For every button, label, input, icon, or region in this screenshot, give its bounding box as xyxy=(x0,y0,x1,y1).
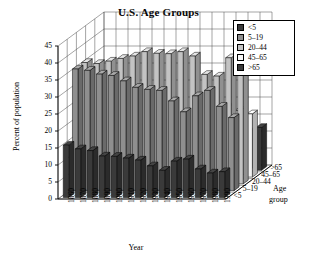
legend-item: 45–65 xyxy=(237,53,292,62)
y-axis-tick-label: 15 xyxy=(34,144,52,152)
y-axis-tick-label: 25 xyxy=(34,110,52,118)
legend-item: 5–19 xyxy=(237,33,292,42)
x-axis-tick-label: 1910 xyxy=(128,188,136,203)
y-axis-tick-label: 5 xyxy=(34,178,52,186)
x-axis-tick-label: 1960 xyxy=(188,188,196,203)
chart-figure: U.S. Age Groups Percent of population Ye… xyxy=(0,0,311,258)
y-axis-tick-label: 35 xyxy=(34,76,52,84)
x-axis-tick-label: 1950 xyxy=(176,188,184,203)
legend-swatch-icon xyxy=(237,54,244,61)
legend-item-label: 20–44 xyxy=(248,43,267,52)
legend-item: <5 xyxy=(237,23,292,32)
z-axis-title-line2: group xyxy=(269,195,288,204)
x-axis-tick-label: 1870 xyxy=(80,188,88,203)
legend-swatch-icon xyxy=(237,64,244,71)
legend-item-label: 5–19 xyxy=(248,33,263,42)
z-axis-tick-label: <5 xyxy=(234,192,242,200)
legend-item-label: 45–65 xyxy=(248,53,267,62)
x-axis-tick-label: 1880 xyxy=(92,188,100,203)
x-axis-tick-label: 1920 xyxy=(140,188,148,203)
legend-item: >65 xyxy=(237,63,292,72)
y-axis-tick-label: 40 xyxy=(34,59,52,67)
x-axis-title: Year xyxy=(129,243,144,252)
y-axis-tick-label: 45 xyxy=(34,42,52,50)
legend: <5 5–19 20–44 45–65 >65 xyxy=(233,20,295,76)
x-axis-tick-label: 1990 xyxy=(224,188,232,203)
x-axis-tick-label: 1980 xyxy=(212,188,220,203)
y-axis-tick-label: 10 xyxy=(34,161,52,169)
legend-item-label: <5 xyxy=(248,23,256,32)
z-axis-title-line1: Age xyxy=(273,184,286,193)
x-axis-tick-label: 1900 xyxy=(116,188,124,203)
x-axis-tick-label: 1970 xyxy=(200,188,208,203)
z-axis-tick-label: >65 xyxy=(270,164,282,172)
legend-item: 20–44 xyxy=(237,43,292,52)
z-axis-tick-label: 45–65 xyxy=(261,171,280,179)
y-axis-tick-label: 30 xyxy=(34,93,52,101)
legend-swatch-icon xyxy=(237,34,244,41)
legend-swatch-icon xyxy=(237,24,244,31)
x-axis-tick-label: 1860 xyxy=(68,188,76,203)
legend-swatch-icon xyxy=(237,44,244,51)
y-axis-tick-label: 0 xyxy=(34,195,52,203)
y-axis-title: Percent of population xyxy=(12,57,21,177)
y-axis-tick-label: 20 xyxy=(34,127,52,135)
x-axis-tick-label: 1940 xyxy=(164,188,172,203)
x-axis-tick-label: 1930 xyxy=(152,188,160,203)
x-axis-tick-label: 1890 xyxy=(104,188,112,203)
z-axis-tick-label: 20–44 xyxy=(252,178,271,186)
legend-item-label: >65 xyxy=(248,63,260,72)
